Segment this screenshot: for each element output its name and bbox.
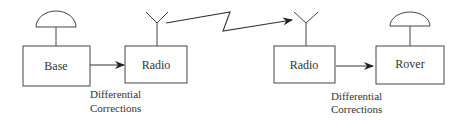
edge-label-left-line1: Differential <box>90 88 141 100</box>
rover-label: Rover <box>395 57 424 71</box>
wireless-link-arrow <box>166 12 292 31</box>
edge-label-right-line2: Corrections <box>331 103 382 115</box>
edge-label-right-line1: Differential <box>331 90 382 102</box>
base-node: Base <box>23 11 90 86</box>
radio-rx-node: Radio <box>274 12 335 83</box>
edge-label-left-line2: Corrections <box>90 102 141 114</box>
rover-node: Rover <box>376 12 444 84</box>
base-label: Base <box>44 59 67 73</box>
diagram-canvas: Base Radio Differential Corrections Radi… <box>0 0 468 120</box>
radio-antenna-icon <box>146 12 168 46</box>
radio-tx-node: Radio <box>125 12 187 83</box>
radio-tx-label: Radio <box>142 58 171 72</box>
gps-antenna-icon <box>36 11 76 27</box>
radio-antenna-icon <box>294 12 318 46</box>
gps-antenna-icon <box>390 12 430 26</box>
radio-rx-label: Radio <box>290 58 319 72</box>
